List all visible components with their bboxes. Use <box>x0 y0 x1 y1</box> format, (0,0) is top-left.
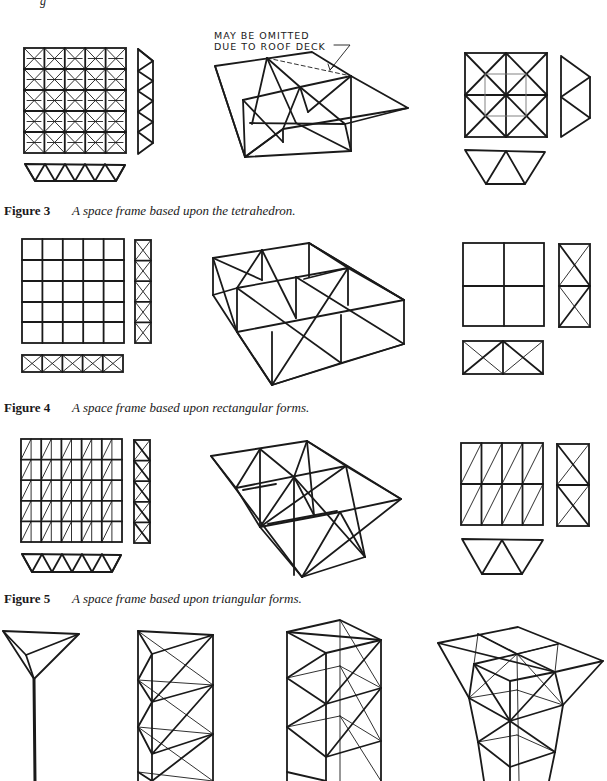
tapered-tower-view <box>0 0 607 781</box>
